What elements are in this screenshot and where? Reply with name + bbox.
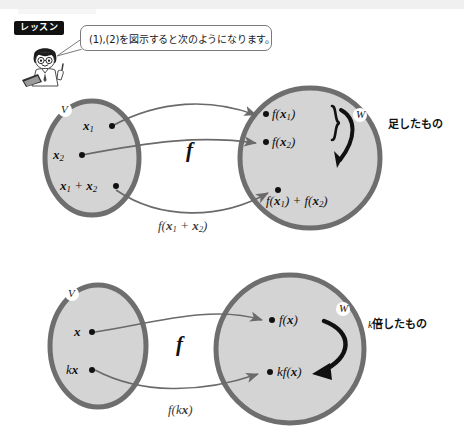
point-label-fx2: f(x2) <box>272 134 295 150</box>
set-w-label: W <box>356 108 365 120</box>
diagram-homogeneity: V W x kx f(x) kf(x) f f(kx) k倍したもの <box>0 262 464 440</box>
point-label-fx1: f(x1) <box>272 106 295 122</box>
map-label-f: f <box>176 332 183 357</box>
edge-label-f-of-sum: f(x1 + x2) <box>158 218 207 234</box>
annotation-k-times: k倍したもの <box>368 314 427 332</box>
set-v-label: V <box>61 103 68 115</box>
point-dot-kfx <box>267 369 273 375</box>
map-label-f: f <box>186 138 193 163</box>
point-label-fx: f(x) <box>279 312 298 328</box>
point-label-kfx: kf(x) <box>277 364 302 380</box>
point-dot-x <box>89 329 95 335</box>
lesson-badge: レッスン <box>14 21 64 35</box>
scan-edge-strip <box>0 0 464 9</box>
point-label-x1-plus-x2: x1 + x2 <box>60 178 97 194</box>
point-label-x: x <box>74 324 81 340</box>
set-w-shape <box>216 275 364 423</box>
point-dot-x1-plus-x2 <box>113 183 119 189</box>
arrow-x1x2-to-sum <box>116 190 268 213</box>
speech-bubble-text: (1),(2)を図示すると次のようになります。 <box>89 31 275 46</box>
point-label-x2: x2 <box>53 147 64 163</box>
set-w-label: W <box>339 302 348 314</box>
point-dot-x1 <box>109 123 115 129</box>
point-label-kx: kx <box>66 362 78 378</box>
annotation-added: 足したもの <box>388 115 443 131</box>
set-v-shape <box>50 285 146 407</box>
annotation-k-times-text: 倍したもの <box>372 318 427 331</box>
speech-bubble: (1),(2)を図示すると次のようになります。 <box>80 25 272 51</box>
point-dot-kx <box>89 367 95 373</box>
point-label-x1: x1 <box>83 118 94 134</box>
point-dot-fx2 <box>263 139 269 145</box>
point-dot-fx <box>269 317 275 323</box>
edge-label-f-of-kx: f(kx) <box>168 402 193 418</box>
diagram-additivity: V W x1 x2 x1 + x2 f(x1) f(x2) f(x1) + f(… <box>0 80 464 235</box>
set-v-label: V <box>68 287 75 299</box>
figure-page: レッスン (1),(2)を図示すると次のようになります。 <box>0 0 464 440</box>
point-dot-fx1 <box>263 111 269 117</box>
point-label-sum: f(x1) + f(x2) <box>266 193 328 209</box>
arrow-x1-to-fx1 <box>112 104 256 126</box>
point-dot-x2 <box>79 152 85 158</box>
